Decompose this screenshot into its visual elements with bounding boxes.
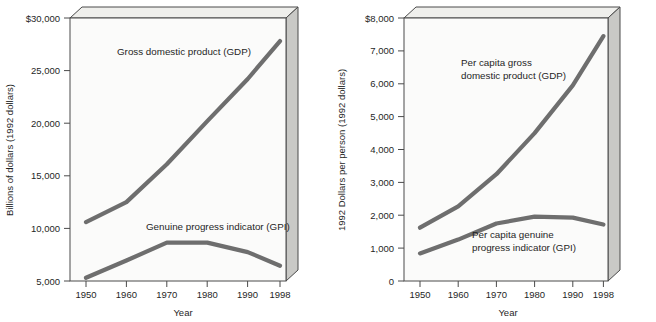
- left-xaxis-title: Year: [173, 307, 192, 318]
- left-xtick-label-3: 1980: [197, 289, 218, 300]
- right-label-gpi-line2: progress indicator (GPI): [472, 242, 576, 253]
- right-xaxis-title: Year: [498, 307, 517, 318]
- right-xtick-label-1: 1960: [448, 289, 469, 300]
- right-ytick-label-1: 7,000: [370, 45, 394, 56]
- right-xtick-label-3: 1980: [524, 289, 545, 300]
- left-ytick-label-5: 5,000: [36, 276, 60, 287]
- left-yaxis-title: Billions of dollars (1992 dollars): [4, 84, 15, 216]
- right-x-ticks: [420, 281, 603, 287]
- chart-panel-right: $8,000 7,000 6,000 5,000 4,000 3,000 2,0…: [328, 0, 656, 322]
- right-xtick-label-5: 1998: [593, 289, 614, 300]
- left-y-ticks: [64, 18, 70, 281]
- right-ytick-label-3: 5,000: [370, 111, 394, 122]
- right-yaxis-title: 1992 Dollars per person (1992 dollars): [336, 69, 347, 231]
- right-ytick-label-6: 2,000: [370, 210, 394, 221]
- left-label-gpi: Genuine progress indicator (GPI): [146, 221, 290, 232]
- chart-panel-left: $30,000 25,000 20,000 15,000 10,000 5,00…: [0, 0, 328, 322]
- left-x-ticks: [86, 281, 280, 287]
- right-ytick-label-2: 6,000: [370, 78, 394, 89]
- left-xtick-label-5: 1998: [269, 289, 290, 300]
- left-chart-svg: $30,000 25,000 20,000 15,000 10,000 5,00…: [0, 0, 328, 322]
- right-box-top-face: [404, 7, 620, 18]
- right-ytick-label-8: 0: [389, 276, 394, 287]
- right-xtick-label-2: 1970: [486, 289, 507, 300]
- right-label-gdp-line1: Per capita gross: [461, 57, 532, 68]
- left-xtick-label-2: 1970: [156, 289, 177, 300]
- figure-container: $30,000 25,000 20,000 15,000 10,000 5,00…: [0, 0, 656, 322]
- right-ytick-label-0: $8,000: [365, 13, 394, 24]
- right-chart-svg: $8,000 7,000 6,000 5,000 4,000 3,000 2,0…: [328, 0, 656, 322]
- left-ytick-label-0: $30,000: [26, 13, 60, 24]
- left-box-top-face: [70, 7, 298, 18]
- right-xtick-label-4: 1990: [562, 289, 583, 300]
- right-ytick-label-5: 3,000: [370, 177, 394, 188]
- right-y-ticks: [398, 18, 404, 281]
- left-ytick-label-1: 25,000: [31, 65, 60, 76]
- left-xtick-label-1: 1960: [116, 289, 137, 300]
- left-ytick-label-2: 20,000: [31, 118, 60, 129]
- left-label-gdp: Gross domestic product (GDP): [117, 46, 251, 57]
- right-label-gdp-line2: domestic product (GDP): [461, 70, 566, 81]
- left-xtick-label-4: 1990: [237, 289, 258, 300]
- left-ytick-label-4: 10,000: [31, 223, 60, 234]
- right-label-gpi-line1: Per capita genuine: [472, 229, 554, 240]
- right-box-side-face: [608, 7, 620, 281]
- right-ytick-label-4: 4,000: [370, 144, 394, 155]
- right-ytick-label-7: 1,000: [370, 243, 394, 254]
- left-box-side-face: [286, 7, 298, 281]
- left-ytick-label-3: 15,000: [31, 170, 60, 181]
- left-xtick-label-0: 1950: [75, 289, 96, 300]
- right-xtick-label-0: 1950: [409, 289, 430, 300]
